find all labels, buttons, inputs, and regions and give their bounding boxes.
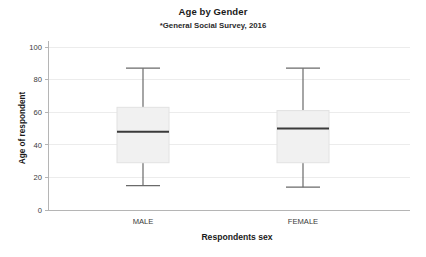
box-series [117, 68, 329, 187]
box-plot-chart: Age by Gender *General Social Survey, 20… [0, 0, 426, 257]
y-tick-label: 20 [34, 173, 42, 182]
box-iqr [277, 111, 329, 163]
y-tick-label: 80 [34, 75, 42, 84]
category-labels: MALEFEMALE [133, 217, 319, 226]
gridlines [48, 47, 410, 210]
y-axis-label: Age of respondent [18, 92, 27, 165]
x-axis-label: Respondents sex [201, 232, 272, 242]
category-label-male: MALE [133, 217, 154, 226]
y-tick-label: 100 [29, 43, 42, 52]
box-iqr [117, 107, 169, 162]
y-tick-label: 0 [38, 206, 42, 215]
category-label-female: FEMALE [288, 217, 318, 226]
box-plot-male [117, 68, 169, 185]
plot-area: 020406080100 MALEFEMALE Age of responden… [0, 0, 426, 257]
y-tick-label: 60 [34, 108, 42, 117]
y-tick-label: 40 [34, 141, 42, 150]
box-plot-female [277, 68, 329, 187]
axis-lines [45, 41, 410, 210]
y-tick-labels: 020406080100 [29, 43, 42, 215]
